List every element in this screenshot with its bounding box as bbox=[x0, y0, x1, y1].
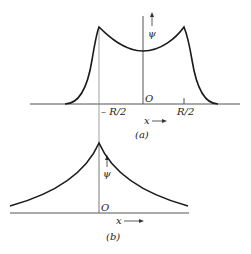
figure-a-curve bbox=[65, 27, 218, 104]
figure-b-caption: (b) bbox=[106, 231, 120, 242]
figure-a-tick-left: – R/2 bbox=[101, 106, 126, 117]
diagram-canvas: ψ O – R/2 R/2 x (a) ψ O x (b) bbox=[0, 0, 251, 254]
figure-a: ψ O – R/2 R/2 x (a) bbox=[30, 12, 240, 143]
figure-b-psi-label: ψ bbox=[103, 168, 111, 179]
figure-a-caption: (a) bbox=[135, 129, 149, 140]
figure-a-psi-label: ψ bbox=[148, 28, 156, 39]
figure-a-tick-right: R/2 bbox=[176, 106, 194, 117]
figure-a-psi-arrowhead bbox=[150, 12, 154, 17]
figure-b-x-label: x bbox=[116, 215, 122, 226]
figure-b: ψ O x (b) bbox=[10, 143, 189, 242]
figure-a-x-arrowhead bbox=[162, 119, 167, 123]
figure-b-x-arrowhead bbox=[139, 219, 144, 223]
figure-b-origin-label: O bbox=[101, 202, 109, 213]
figure-a-x-label: x bbox=[144, 115, 150, 126]
figure-a-origin-label: O bbox=[145, 93, 153, 104]
